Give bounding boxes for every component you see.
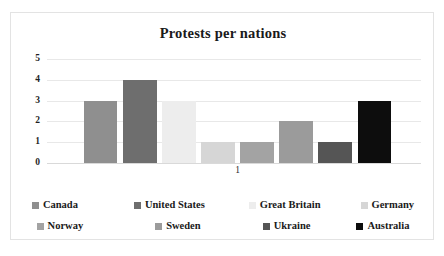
legend-item-germany[interactable]: Germany: [361, 200, 415, 211]
chart-title: Protests per nations: [11, 25, 435, 42]
bar-united-states: [123, 80, 157, 163]
legend-item-canada[interactable]: Canada: [32, 200, 78, 211]
legend-swatch-icon: [32, 202, 39, 209]
legend-item-australia[interactable]: Australia: [356, 221, 409, 232]
bar-great-britain: [162, 101, 196, 163]
legend-item-label: Australia: [367, 221, 409, 232]
legend-swatch-icon: [361, 202, 368, 209]
legend-row: CanadaUnited StatesGreat BritainGermany: [25, 195, 421, 216]
plot-area: 012345: [47, 59, 421, 163]
y-axis-tick-label: 5: [35, 54, 40, 64]
y-axis-tick-label: 4: [35, 75, 40, 85]
legend-item-label: Great Britain: [260, 200, 321, 211]
legend-swatch-icon: [263, 223, 270, 230]
legend-item-label: Ukraine: [274, 221, 311, 232]
legend-item-united-states[interactable]: United States: [134, 200, 205, 211]
legend-swatch-icon: [37, 223, 44, 230]
legend-item-sweden[interactable]: Sweden: [155, 221, 200, 232]
legend-swatch-icon: [155, 223, 162, 230]
x-axis-tick-labels: 1: [47, 165, 421, 181]
legend-swatch-icon: [134, 202, 141, 209]
legend-item-label: Canada: [43, 200, 78, 211]
legend-item-label: United States: [145, 200, 205, 211]
gridline: [47, 163, 421, 164]
chart-legend: CanadaUnited StatesGreat BritainGermanyN…: [25, 195, 421, 237]
bar-canada: [84, 101, 118, 163]
bar-sweden: [279, 121, 313, 163]
bar-norway: [240, 142, 274, 163]
legend-item-norway[interactable]: Norway: [37, 221, 84, 232]
bar-germany: [201, 142, 235, 163]
y-axis-tick-label: 3: [35, 96, 40, 106]
bar-series-group: [47, 59, 421, 163]
y-axis-tick-label: 0: [35, 158, 40, 168]
legend-item-label: Sweden: [166, 221, 200, 232]
chart-container: Protests per nations 012345 1 CanadaUnit…: [10, 12, 434, 240]
y-axis-tick-label: 2: [35, 117, 40, 127]
legend-swatch-icon: [249, 202, 256, 209]
bar-australia: [358, 101, 392, 163]
legend-row: NorwaySwedenUkraineAustralia: [25, 216, 421, 237]
y-axis-tick-label: 1: [35, 137, 40, 147]
bar-ukraine: [318, 142, 352, 163]
legend-item-ukraine[interactable]: Ukraine: [263, 221, 311, 232]
legend-item-label: Germany: [372, 200, 415, 211]
x-axis-tick-label: 1: [235, 165, 240, 175]
legend-swatch-icon: [356, 223, 363, 230]
legend-item-great-britain[interactable]: Great Britain: [249, 200, 321, 211]
legend-item-label: Norway: [48, 221, 84, 232]
